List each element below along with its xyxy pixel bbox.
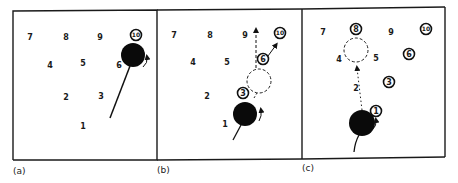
cue-stick [354, 135, 359, 152]
ball-5: 5 [224, 58, 230, 67]
svg-text:10: 10 [276, 29, 284, 36]
svg-text:3: 3 [240, 89, 246, 98]
svg-text:8: 8 [63, 33, 69, 42]
svg-text:7: 7 [320, 28, 326, 37]
svg-text:4: 4 [190, 58, 196, 67]
svg-text:2: 2 [204, 92, 210, 101]
svg-text:5: 5 [373, 54, 379, 63]
svg-text:4: 4 [336, 55, 342, 64]
panel-c: 78910456231 [320, 24, 431, 153]
svg-text:4: 4 [47, 61, 53, 70]
ghost-ball [344, 38, 368, 62]
cue-ball [233, 102, 257, 126]
panel-label-a: (a) [13, 166, 26, 176]
ball-8: 8 [351, 24, 362, 35]
ball-4: 4 [336, 55, 342, 64]
ball-5: 5 [373, 54, 379, 63]
ball-10: 10 [275, 28, 286, 39]
ball-7: 7 [171, 31, 177, 40]
ball-4: 4 [47, 61, 53, 70]
svg-text:5: 5 [80, 59, 86, 68]
cue-ball [121, 43, 145, 67]
ball-3: 3 [238, 88, 249, 99]
svg-text:3: 3 [98, 92, 104, 101]
ball-9: 9 [97, 33, 103, 42]
ball-9: 9 [242, 31, 248, 40]
svg-text:1: 1 [222, 120, 228, 129]
ball-8: 8 [63, 33, 69, 42]
ball-8: 8 [207, 31, 213, 40]
panel-frames [13, 7, 445, 160]
svg-text:7: 7 [171, 31, 177, 40]
ball-5: 5 [80, 59, 86, 68]
ball-7: 7 [320, 28, 326, 37]
cue-ball [349, 110, 375, 136]
svg-text:8: 8 [207, 31, 213, 40]
billiards-diagram: 78910456231 78910456231 78910456231 (a) … [0, 0, 458, 183]
ball-2: 2 [204, 92, 210, 101]
svg-text:3: 3 [386, 78, 392, 87]
svg-text:10: 10 [132, 31, 140, 38]
panel-label-b: (b) [157, 165, 170, 175]
svg-text:1: 1 [80, 122, 86, 131]
svg-text:6: 6 [406, 50, 412, 59]
svg-text:9: 9 [242, 31, 248, 40]
ball-2: 2 [63, 93, 69, 102]
panel-label-c: (c) [302, 163, 314, 173]
ball-6: 6 [404, 49, 415, 60]
spin-arrow-icon [259, 110, 261, 121]
svg-text:6: 6 [116, 61, 122, 70]
cue-stick [110, 66, 130, 118]
svg-text:5: 5 [224, 58, 230, 67]
svg-text:10: 10 [422, 25, 430, 32]
ball-10: 10 [421, 24, 432, 35]
ball-2: 2 [353, 84, 359, 93]
svg-text:9: 9 [388, 28, 394, 37]
ball-6: 6 [116, 61, 122, 70]
ball-6: 6 [258, 54, 269, 65]
svg-text:1: 1 [373, 107, 379, 116]
ghost-ball [247, 69, 271, 93]
ball-1: 1 [222, 120, 228, 129]
svg-text:2: 2 [353, 84, 359, 93]
ball-1: 1 [80, 122, 86, 131]
ball-7: 7 [27, 33, 33, 42]
cue-path-dashed [254, 93, 257, 98]
cue-stick [233, 125, 241, 140]
panel-b: 78910456231 [171, 28, 285, 141]
ball-1: 1 [371, 106, 382, 117]
ball-3: 3 [98, 92, 104, 101]
ball-10: 10 [131, 30, 142, 41]
svg-text:8: 8 [353, 25, 359, 34]
svg-text:2: 2 [63, 93, 69, 102]
svg-text:9: 9 [97, 33, 103, 42]
object-ball-path [268, 45, 276, 56]
ball-9: 9 [388, 28, 394, 37]
svg-text:6: 6 [260, 55, 266, 64]
svg-text:7: 7 [27, 33, 33, 42]
ball-4: 4 [190, 58, 196, 67]
panel-a: 78910456231 [27, 30, 147, 132]
ball-3: 3 [384, 77, 395, 88]
